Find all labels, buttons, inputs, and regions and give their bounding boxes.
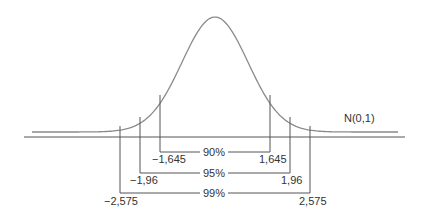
upper-bound-label-99: 2,575 (299, 195, 327, 207)
confidence-label-90: 90% (203, 146, 225, 158)
diagram-canvas: N(0,1) 90% −1,645 1,645 95% −1,96 1,96 9… (0, 0, 427, 217)
confidence-label-95: 95% (203, 167, 225, 179)
normal-distribution-diagram: N(0,1) 90% −1,645 1,645 95% −1,96 1,96 9… (0, 0, 427, 217)
lower-bound-label-95: −1,96 (130, 174, 158, 186)
lower-bound-label-99: −2,575 (104, 195, 138, 207)
upper-bound-label-90: 1,645 (259, 153, 287, 165)
interval-90 (160, 95, 270, 152)
upper-bound-label-95: 1,96 (281, 174, 302, 186)
distribution-label: N(0,1) (344, 112, 375, 124)
confidence-label-99: 99% (203, 187, 225, 199)
lower-bound-label-90: −1,645 (152, 153, 186, 165)
